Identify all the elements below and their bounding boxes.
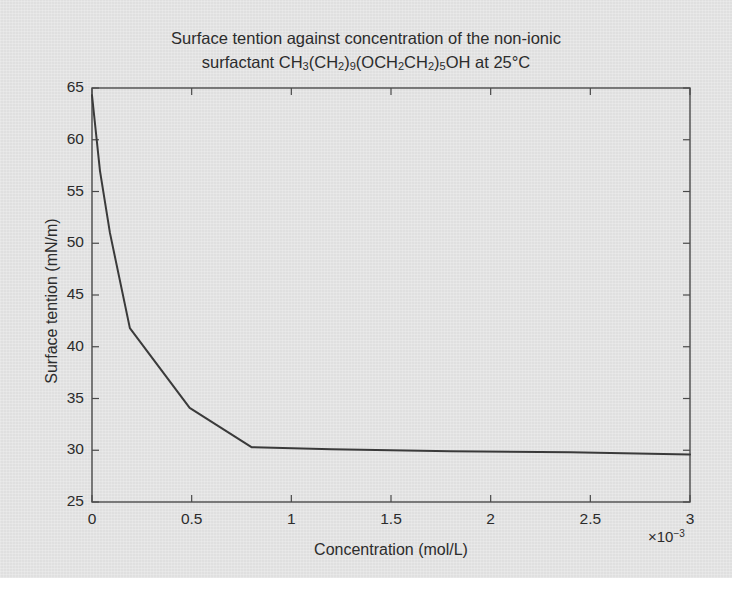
- data-series-line: [92, 95, 690, 454]
- axes-box: [92, 88, 690, 502]
- plot-canvas: [0, 0, 732, 578]
- chart-figure: Surface tention against concentration of…: [0, 0, 732, 578]
